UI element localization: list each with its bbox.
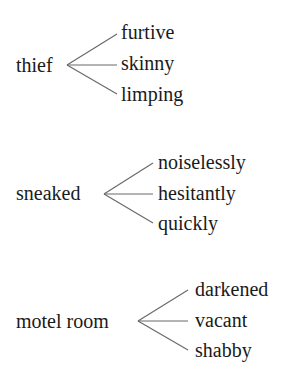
child-word: limping: [121, 84, 183, 104]
child-word: skinny: [121, 53, 174, 73]
child-word: darkened: [195, 279, 268, 299]
connector-sneaked-quickly: [104, 194, 153, 223]
child-word: vacant: [195, 310, 247, 330]
connector-motelroom-shabby: [138, 321, 188, 350]
root-word: motel room: [16, 311, 109, 331]
child-word: quickly: [158, 213, 218, 233]
connector-sneaked-noiselessly: [104, 163, 153, 194]
child-word: furtive: [121, 22, 174, 42]
root-word: sneaked: [16, 183, 80, 203]
child-word: hesitantly: [158, 183, 236, 203]
connector-thief-furtive: [67, 34, 117, 65]
connector-motelroom-darkened: [138, 290, 188, 321]
root-word: thief: [16, 55, 53, 75]
child-word: shabby: [195, 340, 252, 360]
connector-thief-limping: [67, 65, 117, 94]
child-word: noiselessly: [158, 152, 246, 172]
